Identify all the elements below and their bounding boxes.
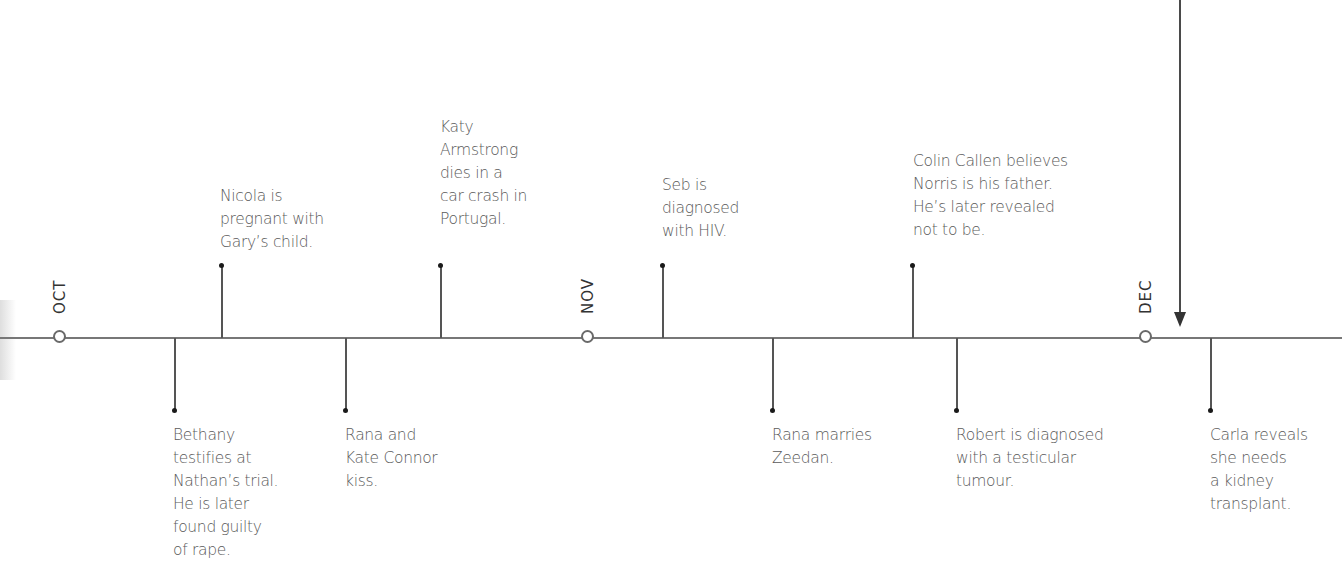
event-stem: [345, 338, 347, 410]
event-dot-icon: [219, 263, 224, 268]
arrow-shaft: [1179, 0, 1181, 316]
event-text: Katy Armstrong dies in a car crash in Po…: [440, 116, 527, 231]
event-stem: [662, 266, 664, 338]
event-dot-icon: [954, 408, 959, 413]
event-text: Bethany testifies at Nathan’s trial. He …: [173, 424, 278, 562]
event-stem: [956, 338, 958, 410]
month-label-oct: OCT: [51, 280, 69, 314]
event-text: Robert is diagnosed with a testicular tu…: [956, 424, 1104, 493]
event-text: Carla reveals she needs a kidney transpl…: [1210, 424, 1308, 516]
event-dot-icon: [770, 408, 775, 413]
event-text: Rana marries Zeedan.: [772, 424, 872, 470]
event-stem: [221, 266, 223, 338]
event-text: Nicola is pregnant with Gary’s child.: [220, 185, 324, 254]
left-edge-fade: [0, 300, 16, 380]
event-dot-icon: [910, 263, 915, 268]
event-dot-icon: [1208, 408, 1213, 413]
event-dot-icon: [660, 263, 665, 268]
month-node-oct: [53, 330, 66, 343]
event-stem: [1210, 338, 1212, 410]
event-stem: [772, 338, 774, 410]
event-text: Rana and Kate Connor kiss.: [345, 424, 437, 493]
event-stem: [912, 266, 914, 338]
month-label-dec: DEC: [1137, 279, 1155, 314]
event-stem: [174, 338, 176, 410]
event-dot-icon: [343, 408, 348, 413]
event-dot-icon: [438, 263, 443, 268]
month-label-nov: NOV: [579, 278, 597, 314]
arrow-head: [1174, 312, 1186, 327]
event-text: Seb is diagnosed with HIV.: [662, 174, 739, 243]
event-dot-icon: [172, 408, 177, 413]
month-node-dec: [1139, 330, 1152, 343]
event-text: Colin Callen believes Norris is his fath…: [913, 150, 1068, 242]
month-node-nov: [581, 330, 594, 343]
event-stem: [440, 266, 442, 338]
